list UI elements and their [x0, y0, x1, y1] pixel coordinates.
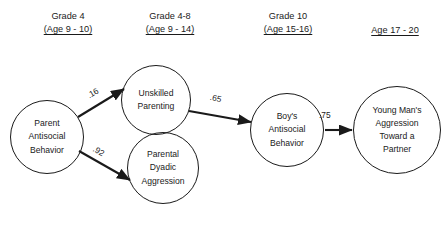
column-header-age-label: Age 17 - 20 — [345, 24, 445, 37]
node-label-line: Antisocial — [29, 130, 66, 143]
node-unskilled-parenting: UnskilledParenting — [121, 65, 191, 135]
column-header-grade-label: Grade 4 — [18, 10, 118, 23]
edge-parent-to-unskilled — [78, 89, 124, 117]
node-label-line: Behavior — [30, 144, 64, 157]
path-diagram: Grade 4(Age 9 - 10)Grade 4-8(Age 9 - 14)… — [0, 0, 446, 227]
node-parental-dyadic-aggression: ParentalDyadicAggression — [127, 132, 199, 204]
node-label-line: Boy's — [277, 110, 298, 123]
node-label-line: Parent — [34, 117, 59, 130]
node-label-line: Unskilled — [139, 87, 174, 100]
column-header-4: Age 17 - 20 — [345, 10, 445, 37]
node-label-line: Behavior — [270, 137, 304, 150]
column-header-grade-label: Grade 10 — [238, 10, 338, 23]
node-label-line: Antisocial — [269, 123, 306, 136]
node-label-line: Partner — [383, 143, 411, 156]
node-label-line: Aggression — [376, 117, 419, 130]
edge-coefficient-unskilled-to-boys: .65 — [209, 92, 222, 104]
node-label-line: Toward a — [380, 130, 415, 143]
node-label-line: Dyadic — [150, 161, 176, 174]
edge-unskilled-to-boys — [189, 111, 251, 122]
node-label-line: Parenting — [138, 100, 175, 113]
node-boys-antisocial-behavior: Boy'sAntisocialBehavior — [250, 93, 324, 167]
node-label-line: Young Man's — [372, 104, 421, 117]
column-header-grade-label: Grade 4-8 — [120, 10, 220, 23]
column-header-3: Grade 10(Age 15-16) — [238, 10, 338, 37]
edge-parent-to-dyadic — [79, 151, 130, 180]
column-header-1: Grade 4(Age 9 - 10) — [18, 10, 118, 37]
column-header-age-label: (Age 9 - 14) — [120, 23, 220, 36]
node-label-line: Parental — [147, 148, 179, 161]
node-parent-antisocial-behavior: ParentAntisocialBehavior — [10, 100, 84, 174]
column-header-2: Grade 4-8(Age 9 - 14) — [120, 10, 220, 37]
column-header-age-label: (Age 15-16) — [238, 23, 338, 36]
edge-coefficient-boys-to-young-man: .75 — [319, 110, 331, 120]
node-young-mans-aggression: Young Man'sAggressionToward aPartner — [353, 86, 441, 174]
column-header-age-label: (Age 9 - 10) — [18, 23, 118, 36]
node-label-line: Aggression — [142, 175, 185, 188]
